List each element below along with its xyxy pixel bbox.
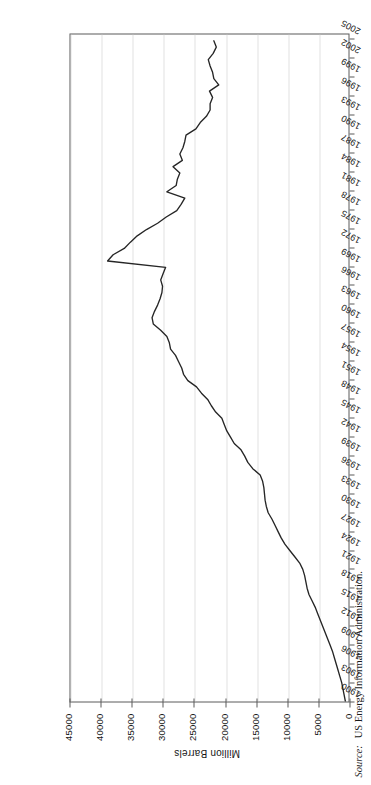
- y-axis-tick: [131, 698, 132, 707]
- y-axis-tick: [69, 698, 70, 707]
- x-axis-tick: [349, 209, 354, 210]
- y-axis-tick: [256, 698, 257, 707]
- y-axis-tick: [162, 698, 163, 707]
- y-axis-tick: [318, 698, 319, 707]
- x-axis-tick: [349, 95, 354, 96]
- x-axis-tick: [349, 57, 354, 58]
- x-axis-tick: [349, 360, 354, 361]
- x-axis-tick: [349, 379, 354, 380]
- y-axis-tick-label: 30000: [155, 713, 166, 785]
- x-axis-tick: [349, 398, 354, 399]
- y-axis-tick: [287, 698, 288, 707]
- x-axis-tick: [349, 417, 354, 418]
- x-axis-tick: [349, 625, 354, 626]
- x-axis-tick: [349, 568, 354, 569]
- y-axis-tick-label: 25000: [186, 713, 197, 785]
- x-axis-tick: [349, 512, 354, 513]
- y-axis-tick-label: 10000: [280, 713, 291, 785]
- y-axis-tick: [349, 698, 350, 707]
- chart-series-svg: [70, 34, 348, 701]
- x-axis-tick: [349, 663, 354, 664]
- y-axis-tick: [100, 698, 101, 707]
- x-axis-tick: [349, 455, 354, 456]
- x-axis-tick: [349, 587, 354, 588]
- x-axis-tick: [349, 38, 354, 39]
- x-axis-tick: [349, 228, 354, 229]
- x-axis-tick: [349, 341, 354, 342]
- x-axis-tick: [349, 171, 354, 172]
- series-line-proved-reserves: [107, 40, 345, 701]
- x-axis-tick: [349, 531, 354, 532]
- x-axis-tick: [349, 436, 354, 437]
- source-label: Source:: [352, 745, 363, 777]
- x-axis-tick: [349, 133, 354, 134]
- y-axis-tick-label: 45000: [62, 713, 73, 785]
- y-axis-tick: [225, 698, 226, 707]
- x-axis-tick: [349, 114, 354, 115]
- y-axis-tick: [193, 698, 194, 707]
- x-axis-tick: [349, 550, 354, 551]
- x-axis-tick: [349, 247, 354, 248]
- y-axis-tick-label: 40000: [93, 713, 104, 785]
- y-axis-title: Million Barrels: [157, 748, 257, 759]
- x-axis-tick: [349, 701, 354, 702]
- x-axis-tick: [349, 284, 354, 285]
- x-axis-tick: [349, 76, 354, 77]
- x-axis-tick: [349, 322, 354, 323]
- x-axis-tick: [349, 606, 354, 607]
- x-axis-tick: [349, 493, 354, 494]
- y-axis-tick-label: 35000: [124, 713, 135, 785]
- y-axis-tick-label: 20000: [218, 713, 229, 785]
- y-axis-tick-label: 15000: [249, 713, 260, 785]
- y-axis-tick-label: 5000: [311, 713, 322, 785]
- chart-plot-area: [69, 33, 349, 702]
- y-axis-tick-label: 0: [342, 713, 353, 785]
- x-axis-tick: [349, 190, 354, 191]
- x-axis-tick: [349, 644, 354, 645]
- rotated-figure-wrapper: Million Barrels Year Source:US Energy In…: [0, 0, 371, 785]
- x-axis-tick: [349, 474, 354, 475]
- x-axis-tick: [349, 682, 354, 683]
- x-axis-tick: [349, 152, 354, 153]
- x-axis-tick: [349, 303, 354, 304]
- x-axis-tick: [349, 266, 354, 267]
